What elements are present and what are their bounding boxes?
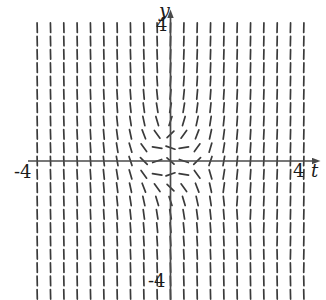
slope-segment <box>197 210 198 219</box>
slope-segment <box>209 130 211 139</box>
slope-segment <box>210 90 211 99</box>
slope-segment <box>184 76 185 85</box>
slope-segment <box>143 103 144 112</box>
slope-segment <box>90 196 91 205</box>
slope-segment <box>156 196 159 205</box>
slope-segment <box>104 210 105 219</box>
slope-segment <box>116 170 118 179</box>
slope-segment <box>130 76 131 85</box>
slope-segment <box>143 196 145 205</box>
slope-segment <box>237 196 238 205</box>
slope-segment <box>117 90 118 99</box>
slope-segment <box>237 116 238 125</box>
slope-segment <box>103 130 104 139</box>
y-axis-tick-neg4: -4 <box>148 272 166 290</box>
slope-segment <box>103 143 104 152</box>
slope-segment <box>195 183 198 192</box>
slope-segment <box>154 184 160 192</box>
slope-segment <box>250 183 251 192</box>
slope-segment <box>223 116 224 125</box>
slope-segment <box>197 236 198 245</box>
slope-segment <box>182 196 185 205</box>
slope-segment <box>144 76 145 85</box>
slope-segment <box>210 76 211 85</box>
slope-segment <box>182 116 185 125</box>
slope-segment <box>103 116 104 125</box>
slope-segment <box>250 130 251 139</box>
slope-segment <box>117 103 118 112</box>
slope-segment <box>152 147 161 148</box>
slope-segment <box>90 183 91 192</box>
slope-segment <box>194 144 200 152</box>
slope-segment <box>143 116 145 125</box>
slope-segment <box>143 210 144 219</box>
slope-segment <box>90 170 91 179</box>
slope-segment <box>129 143 132 152</box>
slope-segment <box>183 90 184 99</box>
slope-segment <box>210 210 211 219</box>
slope-segment <box>250 196 251 205</box>
slope-segment <box>237 130 238 139</box>
slope-segment <box>130 90 131 99</box>
slope-segment <box>116 143 118 152</box>
slope-segment <box>183 103 185 112</box>
slope-segment <box>156 210 158 219</box>
slope-segment <box>179 174 188 175</box>
slope-segment <box>209 183 211 192</box>
slope-segment <box>144 236 145 245</box>
slope-segment <box>117 210 118 219</box>
slope-segment <box>223 196 224 205</box>
slope-segment <box>237 210 238 219</box>
slope-segment <box>183 223 184 232</box>
slope-segment <box>210 116 211 125</box>
slope-segment <box>210 196 211 205</box>
slope-segment <box>250 170 251 179</box>
slope-segment <box>143 223 144 232</box>
slope-segment <box>130 210 131 219</box>
slope-segment <box>197 76 198 85</box>
slope-segment <box>250 143 251 152</box>
slope-segment <box>130 103 131 112</box>
slope-segment <box>237 143 238 152</box>
slope-segment <box>224 90 225 99</box>
slope-field-figure: y t 4 -4 -4 4 <box>0 0 326 300</box>
slope-segment <box>223 103 224 112</box>
slope-segment <box>223 170 225 179</box>
slope-segment <box>130 116 131 125</box>
slope-segment <box>142 130 145 139</box>
slope-segment <box>223 143 225 152</box>
slope-segment <box>156 116 159 125</box>
slope-segment <box>157 223 158 232</box>
slope-segment <box>103 183 104 192</box>
slope-segment <box>224 223 225 232</box>
slope-segment <box>156 103 158 112</box>
slope-segment <box>209 143 212 152</box>
slope-segment <box>130 196 131 205</box>
slope-segment <box>152 174 161 175</box>
slope-segment <box>197 90 198 99</box>
slope-segment <box>237 170 238 179</box>
slope-segment <box>157 236 158 245</box>
slope-segment <box>195 130 198 139</box>
slope-segment <box>210 223 211 232</box>
slope-segment <box>117 183 118 192</box>
slope-segment <box>143 90 144 99</box>
slope-segment <box>157 76 158 85</box>
t-axis-label: t <box>311 162 318 180</box>
slope-segment <box>141 170 147 178</box>
slope-segment <box>117 223 118 232</box>
slope-segment <box>130 223 131 232</box>
slope-segment <box>223 183 224 192</box>
slope-segment <box>223 130 224 139</box>
slope-segment <box>210 236 211 245</box>
slope-segment <box>130 183 132 192</box>
slope-segment <box>90 130 91 139</box>
slope-segment <box>194 170 200 178</box>
slope-segment <box>117 116 118 125</box>
slope-segment <box>130 236 131 245</box>
t-axis-tick-neg4: -4 <box>14 163 32 181</box>
slope-segment <box>237 183 238 192</box>
slope-segment <box>142 183 145 192</box>
slope-segment <box>117 196 118 205</box>
slope-segment <box>90 116 91 125</box>
